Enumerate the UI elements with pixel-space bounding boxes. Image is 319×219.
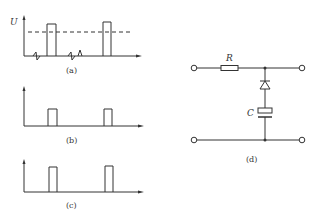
capacitor-label: C: [247, 108, 254, 118]
resistor-label: R: [225, 53, 233, 63]
pulse: [47, 24, 56, 56]
panel-label: (a): [66, 66, 77, 75]
pulse: [48, 109, 57, 126]
capacitor-plate: [258, 108, 272, 113]
y-axis-label: U: [10, 17, 18, 27]
panel-b: (b): [23, 86, 145, 145]
junction-node: [264, 139, 267, 142]
pulse: [105, 166, 113, 192]
output-terminal-top: [299, 65, 305, 71]
diode-icon: [260, 81, 270, 89]
noise-spike: [78, 50, 82, 56]
panel-c: (c): [23, 159, 145, 210]
y-axis-arrow-icon: [23, 159, 26, 164]
x-axis-arrow-icon: [136, 55, 142, 58]
pulse: [49, 167, 57, 192]
panel-label: (d): [246, 155, 257, 164]
input-terminal-top: [191, 65, 197, 71]
x-axis-arrow-icon: [138, 125, 144, 128]
panel-label: (c): [66, 201, 77, 210]
y-axis-arrow-icon: [23, 86, 26, 91]
panel-label: (b): [66, 136, 77, 145]
x-axis-arrow-icon: [138, 191, 144, 194]
y-axis-arrow-icon: [23, 15, 26, 20]
resistor: [221, 66, 238, 71]
panel-a: U (a): [10, 15, 142, 75]
output-terminal-bottom: [299, 137, 305, 143]
pulse: [104, 109, 112, 126]
pulse: [103, 22, 111, 56]
input-terminal-bottom: [191, 137, 197, 143]
panel-d: R C (d): [191, 53, 305, 164]
figure: U (a) (b) (c) R: [0, 0, 319, 219]
